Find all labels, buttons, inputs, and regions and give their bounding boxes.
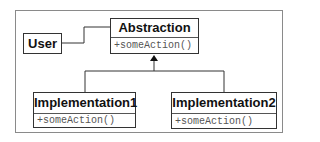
class-implementation2[interactable]: Implementation2 +someAction() [171, 92, 277, 129]
class-name: Implementation1 [34, 93, 135, 113]
class-abstraction[interactable]: Abstraction +someAction() [110, 18, 199, 54]
class-name: User [24, 34, 61, 53]
class-user[interactable]: User [23, 33, 62, 54]
class-name: Abstraction [111, 19, 198, 37]
class-implementation1[interactable]: Implementation1 +someAction() [33, 92, 136, 128]
association-line [61, 27, 110, 43]
class-operation: +someAction() [34, 113, 135, 128]
class-operation: +someAction() [111, 37, 198, 53]
class-operation: +someAction() [172, 113, 276, 129]
class-name: Implementation2 [172, 93, 276, 113]
generalization-branch [85, 71, 224, 92]
inheritance-arrow-icon [150, 55, 158, 61]
